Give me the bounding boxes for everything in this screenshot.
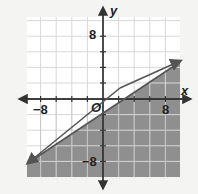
origin-label: O [91, 100, 101, 115]
x-tick-label-8: 8 [162, 102, 169, 117]
y-tick-label-8: 8 [89, 27, 96, 42]
x-axis-label: x [180, 83, 189, 98]
coordinate-plane: x y O −8 8 8 −8 [0, 0, 198, 194]
x-tick-label-neg8: −8 [33, 102, 48, 117]
y-tick-label-neg8: −8 [82, 154, 97, 169]
y-axis-label: y [109, 3, 118, 18]
